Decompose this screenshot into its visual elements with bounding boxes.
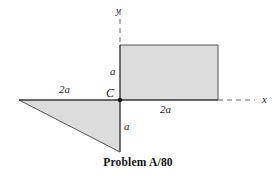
triangle-shape [19, 100, 120, 152]
rectangle-shape [120, 45, 218, 100]
dimension-label-rect-height: a [110, 66, 116, 77]
dimension-label-rect-width: 2a [160, 104, 171, 115]
y-axis-label: y [116, 5, 121, 16]
dimension-label-triangle-height: a [124, 121, 130, 132]
centroid-label: C [106, 87, 114, 99]
figure-caption: Problem A/80 [0, 156, 276, 168]
figure-canvas [0, 0, 276, 176]
centroid-point-marker [118, 98, 122, 102]
problem-figure: y x C a a 2a 2a Problem A/80 [0, 0, 276, 176]
dimension-label-triangle-base: 2a [59, 84, 70, 95]
x-axis-label: x [262, 94, 267, 105]
